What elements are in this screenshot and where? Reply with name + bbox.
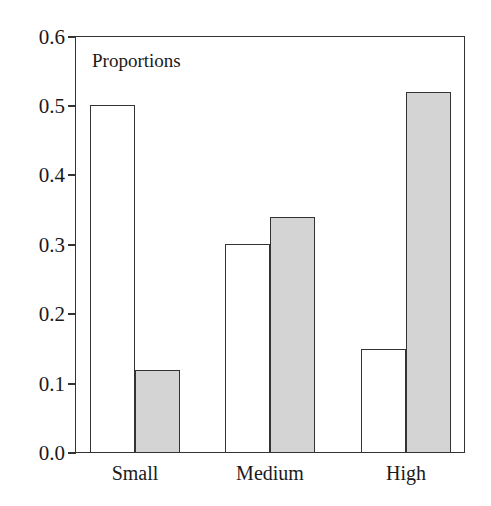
y-tick-label: 0.2 [39,302,65,327]
plot-frame [75,36,465,453]
y-tick-label: 0.3 [39,233,65,258]
y-tick-label: 0.1 [39,372,65,397]
y-tick-label: 0.0 [39,441,65,466]
y-tick-label: 0.4 [39,163,65,188]
y-tick-label: 0.6 [39,25,65,50]
y-tick-label: 0.5 [39,94,65,119]
x-tick-label-high: High [386,462,426,485]
x-tick-label-medium: Medium [236,462,304,485]
x-tick-label-small: Small [112,462,159,485]
